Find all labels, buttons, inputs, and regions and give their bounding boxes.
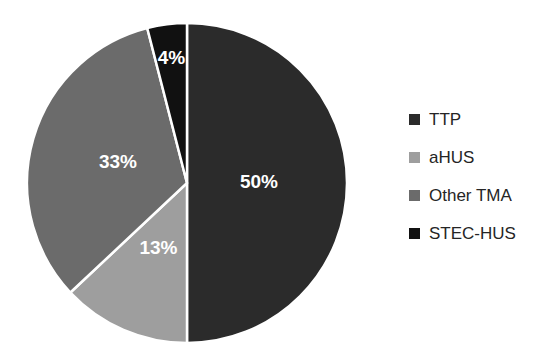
legend-swatch-other-tma [409,190,420,201]
legend-swatch-ahus [409,152,420,163]
chart-legend: TTP aHUS Other TMA STEC-HUS [409,100,559,252]
legend-item-other-tma[interactable]: Other TMA [409,176,559,214]
pie-chart-figure: 50%13%33%4% TTP aHUS Other TMA STEC-HUS [0,0,559,357]
legend-label-other-tma: Other TMA [429,187,512,204]
legend-item-stec-hus[interactable]: STEC-HUS [409,214,559,252]
pie-slice-label-stec-hus: 4% [158,47,186,68]
legend-swatch-ttp [409,114,420,125]
legend-item-ahus[interactable]: aHUS [409,138,559,176]
legend-label-stec-hus: STEC-HUS [429,225,516,242]
legend-label-ttp: TTP [429,111,461,128]
legend-item-ttp[interactable]: TTP [409,100,559,138]
pie-slice-label-ttp: 50% [240,171,278,192]
legend-swatch-stec-hus [409,228,420,239]
legend-label-ahus: aHUS [429,149,474,166]
pie-slice-label-other-tma: 33% [99,151,137,172]
pie-slice-label-ahus: 13% [139,237,177,258]
pie-chart-svg: 50%13%33%4% [0,0,380,357]
pie-chart-plot-area: 50%13%33%4% [0,0,380,357]
pie-slice-group [27,23,347,343]
